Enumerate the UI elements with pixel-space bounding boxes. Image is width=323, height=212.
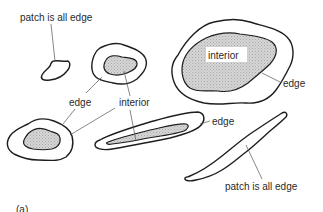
large-patch-with-interior [172,19,293,104]
patch-edge-interior-diagram: patch is all edge interior edge edge int… [0,0,323,212]
elongated-patch-with-interior [95,112,204,150]
label-edge-elongated: edge [212,116,235,127]
panel-label: (a) [16,204,28,212]
bottom-left-patch-with-interior [7,119,72,160]
leader-interior-to-bottom-left [70,108,115,135]
small-edge-only-patch [41,61,69,81]
label-interior-middle: interior [119,97,150,108]
medium-patch-with-interior [92,44,147,84]
leader-edge-to-medium [86,77,102,93]
label-interior-large: interior [208,50,239,61]
label-edge-middle: edge [69,97,92,108]
leader-patch-bottom [246,145,262,179]
label-edge-large: edge [283,78,306,89]
leader-line-patch-top [51,24,55,61]
leader-edge-to-bottom-left [63,109,75,124]
label-patch-is-all-edge-top: patch is all edge [20,12,93,23]
label-patch-is-all-edge-bottom: patch is all edge [225,181,298,192]
